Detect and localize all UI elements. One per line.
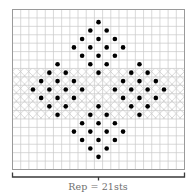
dot-stitch xyxy=(96,70,101,75)
dot-stitch xyxy=(80,37,85,42)
dot-stitch xyxy=(80,54,85,59)
dot-stitch xyxy=(145,87,150,92)
dot-stitch xyxy=(47,70,52,75)
dot-stitch xyxy=(39,96,44,101)
dot-stitch xyxy=(72,96,77,101)
dot-stitch xyxy=(113,138,118,143)
dot-stitch xyxy=(129,70,134,75)
dot-stitch xyxy=(137,112,142,117)
repeat-label: Rep = 21sts xyxy=(0,181,193,192)
dot-stitch xyxy=(39,79,44,84)
dot-stitch xyxy=(104,129,109,134)
dot-stitch xyxy=(72,129,77,134)
dot-stitch xyxy=(80,87,85,92)
dot-stitch xyxy=(137,62,142,67)
dot-stitch xyxy=(113,37,118,42)
dot-stitch xyxy=(137,79,142,84)
dot-stitch xyxy=(63,104,68,109)
dot-stitch xyxy=(104,146,109,151)
dot-stitch xyxy=(55,112,60,117)
dot-stitch xyxy=(88,112,93,117)
dot-stitch xyxy=(137,96,142,101)
dot-stitch xyxy=(63,70,68,75)
dot-stitch xyxy=(121,129,126,134)
dot-stitch xyxy=(96,104,101,109)
dot-stitch xyxy=(55,79,60,84)
dot-stitch xyxy=(121,79,126,84)
dot-stitch xyxy=(80,121,85,126)
dot-stitch xyxy=(162,87,167,92)
dot-stitch xyxy=(55,62,60,67)
dot-stitch xyxy=(47,104,52,109)
dot-stitch xyxy=(104,112,109,117)
dot-stitch xyxy=(121,45,126,50)
dot-stitch xyxy=(154,79,159,84)
dot-stitch xyxy=(88,146,93,151)
dot-stitch xyxy=(121,96,126,101)
repeat-bracket xyxy=(13,173,185,181)
dot-stitch xyxy=(63,87,68,92)
dot-stitch xyxy=(96,54,101,59)
dot-stitch xyxy=(113,54,118,59)
dot-stitch xyxy=(113,87,118,92)
dot-stitch xyxy=(88,62,93,67)
dot-stitch xyxy=(104,28,109,33)
dot-stitch xyxy=(96,155,101,160)
dot-stitch xyxy=(88,45,93,50)
dot-stitch xyxy=(88,129,93,134)
dot-stitch xyxy=(154,96,159,101)
dot-stitch xyxy=(72,45,77,50)
dot-stitch xyxy=(80,138,85,143)
dot-stitch xyxy=(96,121,101,126)
dot-stitch xyxy=(104,62,109,67)
dot-stitch xyxy=(96,20,101,25)
dot-stitch xyxy=(129,104,134,109)
dot-stitch xyxy=(72,79,77,84)
dot-stitch xyxy=(96,138,101,143)
dot-stitch xyxy=(145,104,150,109)
dot-stitch xyxy=(31,87,36,92)
dot-stitch xyxy=(104,45,109,50)
dot-stitch xyxy=(88,28,93,33)
dot-stitch xyxy=(47,87,52,92)
dot-stitch xyxy=(129,87,134,92)
dot-stitch xyxy=(113,121,118,126)
dot-stitch xyxy=(96,37,101,42)
knitting-chart xyxy=(0,0,193,195)
dot-stitch xyxy=(145,70,150,75)
dot-stitch xyxy=(55,96,60,101)
